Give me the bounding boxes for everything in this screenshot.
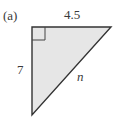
- side-left-label: 7: [17, 63, 24, 76]
- side-top-label: 4.5: [64, 8, 80, 21]
- hypotenuse-label: n: [77, 70, 84, 83]
- triangle-diagram: (a) 4.5 7 n: [0, 0, 119, 129]
- part-label: (a): [3, 9, 17, 22]
